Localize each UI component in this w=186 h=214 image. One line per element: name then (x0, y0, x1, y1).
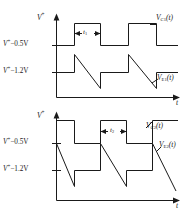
signal-label-ve1: VE1(t) (157, 74, 174, 83)
top-level-label-1p2: V+−1.2V (3, 66, 28, 76)
top-y-axis-label: V+ (37, 12, 45, 21)
top-x-axis (57, 95, 181, 101)
interval-t1-sub: 1 (85, 31, 87, 36)
signal-ve2-arg: (t) (169, 140, 176, 149)
bottom-y-axis (54, 112, 60, 201)
bottom-level-1p2-rest: −1.2V (10, 165, 28, 173)
waveform-ve1 (57, 55, 179, 89)
interval-marker-t1 (75, 31, 101, 36)
top-level-label-0p5: V+−0.5V (3, 39, 28, 49)
signal-vc1-arg: (t) (166, 13, 173, 22)
top-x-axis-label: t (176, 99, 178, 107)
bottom-y-axis-label-sup: + (42, 109, 45, 115)
interval-t2-sub: 2 (112, 129, 114, 134)
top-y-axis-label-sup: + (42, 11, 45, 17)
bottom-y-axis-arrow (54, 112, 60, 119)
signal-ve1-arg: (t) (167, 73, 174, 82)
signal-label-ve2: VE2(t) (159, 141, 176, 150)
signal-vc2-arg: (t) (156, 121, 163, 130)
top-y-axis-arrow (54, 14, 60, 21)
bottom-x-axis-label: t (176, 202, 178, 210)
waveform-figure: V+ V+−0.5V V+−1.2V t1 VC1(t) VE1(t) t V+… (0, 0, 186, 214)
interval-label-t2: t2 (110, 127, 114, 134)
top-level-0p5-rest: −0.5V (10, 40, 28, 48)
bottom-level-0p5-rest: −0.5V (10, 138, 28, 146)
top-level-1p2-rest: −1.2V (10, 67, 28, 75)
interval-label-t1: t1 (83, 29, 87, 36)
bottom-level-label-1p2: V+−1.2V (3, 164, 28, 174)
bottom-x-axis (57, 198, 181, 204)
signal-label-vc2: VC2(t) (146, 122, 163, 131)
signal-label-vc1: VC1(t) (156, 14, 173, 23)
bottom-y-axis-label: V+ (37, 110, 45, 119)
waveform-canvas (0, 0, 186, 214)
top-y-axis (54, 14, 60, 98)
bottom-level-label-0p5: V+−0.5V (3, 137, 28, 147)
waveform-vc1 (57, 24, 179, 46)
